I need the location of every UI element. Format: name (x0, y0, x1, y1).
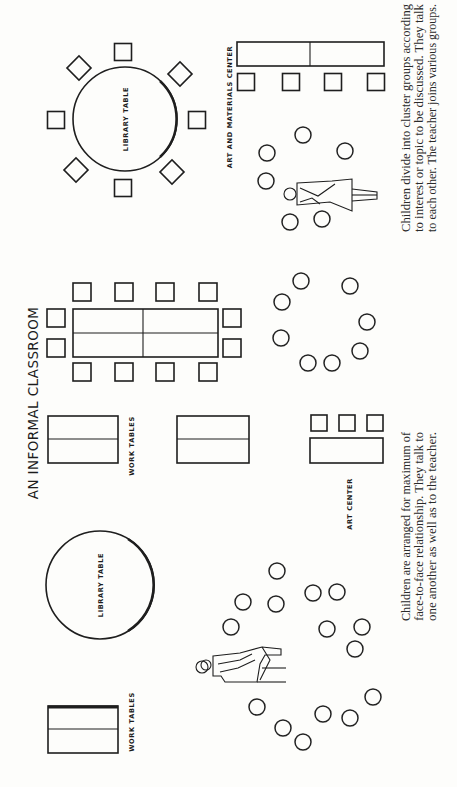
chair (73, 283, 91, 301)
art-center-label: ART CENTER (346, 478, 354, 530)
chair (238, 74, 255, 91)
chair (339, 415, 355, 431)
stool (295, 734, 311, 750)
work-tables-label-middle: WORK TABLES (128, 416, 136, 476)
chair (160, 160, 184, 184)
stool (259, 145, 275, 161)
chair (156, 363, 174, 381)
library-table-bottom-shadow (128, 539, 154, 631)
stool (282, 214, 298, 230)
chair (223, 339, 241, 357)
chair (115, 363, 133, 381)
floor-plan: AN INFORMAL CLASSROOM LIBRARY TABLE ART … (0, 0, 457, 787)
chair (115, 180, 132, 197)
caption-bottom-line-1: Children are arranged for maximum of (400, 432, 413, 621)
work-tables-label-bottom: WORK TABLES (128, 692, 136, 752)
chair (199, 283, 217, 301)
work-tables-middle: WORK TABLES (48, 416, 249, 476)
stool (300, 355, 316, 371)
stool (354, 619, 370, 635)
teacher-arm (218, 654, 252, 664)
teacher-figure-bottom (196, 647, 286, 682)
chair (283, 74, 300, 91)
teacher-lap (260, 647, 270, 680)
chair (367, 415, 383, 431)
library-table-label-bottom: LIBRARY TABLE (97, 553, 105, 617)
library-table-group-top: LIBRARY TABLE (48, 44, 206, 197)
cluster-stools-top (258, 127, 353, 230)
stool (235, 594, 251, 610)
caption-top-line-3: to each other. The teacher joins various… (426, 4, 439, 232)
stool (329, 584, 345, 600)
stool (365, 689, 381, 705)
stool (268, 596, 284, 612)
caption-bottom-line-2: face-to-face relationship. They talk to (413, 432, 426, 621)
stool (319, 621, 335, 637)
teacher-figure-top (284, 179, 377, 211)
caption-top-line-2: to interest or topic to be discussed. Th… (413, 4, 426, 232)
art-center-chairs (311, 415, 383, 431)
caption-bottom: Children are arranged for maximum of fac… (400, 432, 439, 621)
chair (67, 56, 91, 80)
stool (275, 720, 291, 736)
art-materials-center-label: ART AND MATERIALS CENTER (226, 46, 234, 168)
chair (115, 44, 132, 61)
chair (156, 283, 174, 301)
library-table-group-bottom: LIBRARY TABLE (46, 531, 154, 639)
library-table-label-top: LIBRARY TABLE (122, 87, 130, 151)
stool (347, 641, 363, 657)
teacher-hair (201, 660, 211, 670)
stool (342, 278, 358, 294)
chair (47, 339, 65, 357)
group-table (47, 283, 241, 381)
caption-top: Children divide into cluster groups acco… (400, 4, 439, 232)
stool (359, 314, 375, 330)
chair (115, 283, 133, 301)
chair (64, 158, 88, 182)
work-tables-bottom: WORK TABLES (48, 692, 136, 753)
stool (293, 273, 309, 289)
stool (352, 343, 368, 359)
stool (337, 143, 353, 159)
stool (269, 563, 285, 579)
stool (223, 619, 239, 635)
chair (325, 74, 342, 91)
library-table-top-shadow (160, 81, 177, 157)
classroom-diagram: AN INFORMAL CLASSROOM LIBRARY TABLE ART … (0, 0, 457, 787)
caption-bottom-line-3: one another as well as to the teacher. (426, 432, 439, 621)
art-center: ART CENTER (310, 415, 383, 530)
stool (342, 710, 358, 726)
chair (311, 415, 327, 431)
teacher-head (284, 188, 296, 200)
teacher-arm (220, 660, 255, 672)
stool (314, 211, 330, 227)
art-materials-chairs (238, 74, 385, 91)
caption-top-line-1: Children divide into cluster groups acco… (400, 4, 413, 232)
chair (48, 112, 65, 129)
chair (223, 309, 241, 327)
chair (73, 363, 91, 381)
art-materials-center: ART AND MATERIALS CENTER (226, 42, 385, 168)
teacher-body (213, 647, 281, 682)
teacher-body (297, 179, 352, 211)
stool (315, 706, 331, 722)
chair (47, 309, 65, 327)
stool (258, 173, 274, 189)
stool (295, 127, 311, 143)
cluster-stools-middle (273, 273, 375, 371)
stool (305, 585, 321, 601)
chair (168, 62, 192, 86)
stool (274, 294, 290, 310)
chair (368, 74, 385, 91)
art-center-table (310, 438, 383, 463)
stool (249, 699, 265, 715)
chair (189, 112, 206, 129)
diagram-title: AN INFORMAL CLASSROOM (25, 307, 41, 499)
stool (273, 330, 289, 346)
chair (199, 363, 217, 381)
stool (324, 355, 340, 371)
group-table-chairs (47, 283, 241, 381)
teacher-arm (300, 184, 335, 196)
